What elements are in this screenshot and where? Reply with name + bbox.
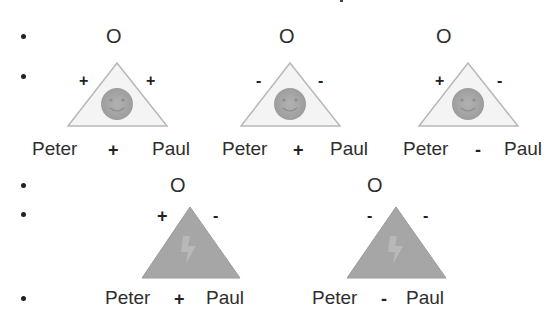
right-node-label: Paul <box>330 139 368 159</box>
left-node-label: Peter <box>105 288 150 308</box>
right-edge-sign: - <box>497 72 502 90</box>
right-node-label: Paul <box>206 288 244 308</box>
left-node-label: Peter <box>403 139 448 159</box>
right-node-label: Paul <box>504 139 542 159</box>
left-edge-sign: + <box>79 72 88 90</box>
left-edge-sign: + <box>435 72 444 90</box>
top-node-label: O <box>436 26 452 46</box>
top-node-label: O <box>170 175 186 195</box>
right-edge-sign: - <box>423 207 428 225</box>
left-node-label: Peter <box>312 288 357 308</box>
right-node-label: Paul <box>406 288 444 308</box>
left-node-label: Peter <box>222 139 267 159</box>
smiley-face-icon <box>452 88 484 120</box>
top-node-label: O <box>106 26 122 46</box>
balanced-triangle-3 <box>419 63 518 126</box>
smiley-face-icon <box>274 88 306 120</box>
bottom-edge-sign: + <box>108 141 119 159</box>
left-edge-sign: - <box>256 72 261 90</box>
left-edge-sign: - <box>367 207 372 225</box>
left-node-label: Peter <box>32 139 77 159</box>
right-edge-sign: - <box>213 207 218 225</box>
top-node-label: O <box>279 26 295 46</box>
right-node-label: Paul <box>152 139 190 159</box>
right-edge-sign: - <box>318 72 323 90</box>
right-edge-sign: + <box>146 72 155 90</box>
bottom-edge-sign: - <box>381 290 387 308</box>
bottom-edge-sign: - <box>475 141 481 159</box>
left-edge-sign: + <box>157 207 168 225</box>
top-node-label: O <box>367 175 383 195</box>
triangle-diagram <box>0 0 555 325</box>
smiley-face-icon <box>101 88 133 120</box>
unbalanced-triangle-2 <box>347 207 446 278</box>
bottom-edge-sign: + <box>293 141 304 159</box>
bottom-edge-sign: + <box>174 290 185 308</box>
